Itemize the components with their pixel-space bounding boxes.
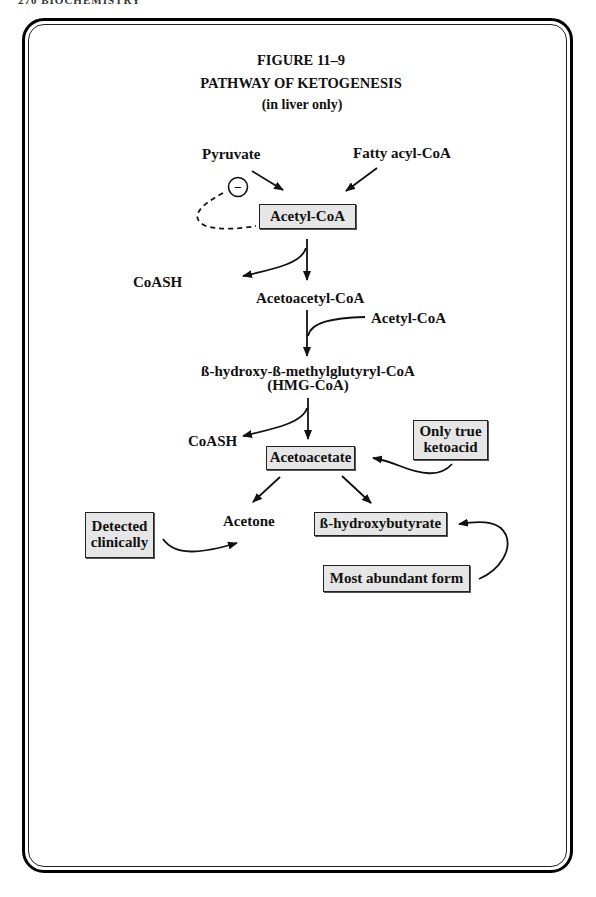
node-hmg-coa-abbrev: (HMG-CoA) xyxy=(267,378,349,393)
arrow-acetylcoa-join xyxy=(308,317,365,336)
node-beta-hydroxybutyrate-label: ß-hydroxybutyrate xyxy=(320,516,441,532)
pointer-detected-clinically xyxy=(163,539,237,552)
pointer-only-true-ketoacid xyxy=(373,458,452,473)
node-fatty-acyl-coa: Fatty acyl-CoA xyxy=(353,146,451,161)
annotation-only-true-ketoacid: Only true ketoacid xyxy=(413,420,488,460)
annotation-most-abundant-label: Most abundant form xyxy=(330,571,463,587)
arrow-fattyacyl-to-acetylcoa xyxy=(346,168,377,191)
node-acetyl-coa: Acetyl-CoA xyxy=(259,204,356,229)
annotation-detected-clinically: Detected clinically xyxy=(85,512,154,558)
node-acetoacetate-label: Acetoacetate xyxy=(270,450,352,466)
node-coash-1: CoASH xyxy=(133,275,182,290)
annotation-detected-line1: Detected xyxy=(91,519,149,535)
node-beta-hydroxybutyrate: ß-hydroxybutyrate xyxy=(314,512,447,536)
node-acetone: Acetone xyxy=(223,514,275,529)
arrow-coash-release-1 xyxy=(243,248,306,276)
inhibition-minus-symbol: − xyxy=(234,181,242,195)
inhibition-feedback-loop xyxy=(197,193,256,229)
arrow-coash-release-2 xyxy=(243,408,307,436)
node-acetoacetyl-coa: Acetoacetyl-CoA xyxy=(256,291,364,306)
arrow-pyruvate-to-acetylcoa xyxy=(252,171,283,190)
annotation-most-abundant-form: Most abundant form xyxy=(323,565,470,592)
annotation-detected-line2: clinically xyxy=(91,535,149,551)
annotation-only-true-line1: Only true xyxy=(419,424,481,440)
node-acetyl-coa-label: Acetyl-CoA xyxy=(270,209,345,225)
node-pyruvate: Pyruvate xyxy=(202,147,260,162)
node-coash-2: CoASH xyxy=(188,434,237,449)
annotation-only-true-line2: ketoacid xyxy=(419,440,481,456)
node-acetyl-coa-input: Acetyl-CoA xyxy=(371,311,446,326)
arrow-to-acetone xyxy=(253,477,280,502)
arrow-to-hydroxybutyrate xyxy=(342,476,371,503)
node-acetoacetate: Acetoacetate xyxy=(266,446,355,470)
